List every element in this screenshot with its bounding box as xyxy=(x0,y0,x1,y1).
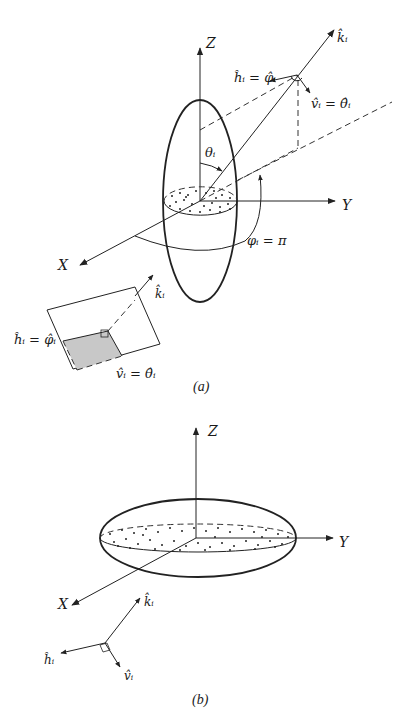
inset-v-equals-theta-label: v̂ᵢ = θ̂ᵢ xyxy=(116,366,156,381)
figure-b: Z Y X k̂ᵢ ĥᵢ v̂ᵢ (b) xyxy=(44,423,350,708)
triad-right-angle-mark xyxy=(100,643,110,652)
x-axis-label-b: X xyxy=(57,596,69,612)
y-axis-label-b: Y xyxy=(339,534,350,550)
diagram-canvas: Z Y X k̂ᵢ ĥᵢ = φ̂ᵢ v̂ᵢ = θ̂ᵢ θᵢ φᵢ = π xyxy=(0,0,402,717)
phi-equals-pi-label: φᵢ = π xyxy=(247,233,287,248)
triad-h-label: ĥᵢ xyxy=(44,652,55,667)
z-axis-label-b: Z xyxy=(207,423,218,439)
inset-h-equals-phi-label: ĥᵢ = φ̂ᵢ xyxy=(14,332,56,347)
theta-label: θᵢ xyxy=(205,145,216,160)
caption-b: (b) xyxy=(192,692,209,708)
inset-plane: k̂ᵢ ĥᵢ = φ̂ᵢ v̂ᵢ = θ̂ᵢ xyxy=(14,275,165,381)
inset-k-label: k̂ᵢ xyxy=(155,284,165,301)
theta-arc xyxy=(200,163,222,171)
x-axis-label: X xyxy=(57,257,69,273)
x-axis xyxy=(80,201,200,265)
disc-dots-b xyxy=(109,527,289,551)
triad-v-label: v̂ᵢ xyxy=(124,669,134,683)
triad-k-vector xyxy=(105,598,140,643)
triad-h-vector xyxy=(61,643,105,653)
triad-v-vector xyxy=(105,643,120,667)
y-axis-label: Y xyxy=(342,197,353,213)
inset-k-vector xyxy=(135,275,153,296)
caption-a: (a) xyxy=(193,379,210,395)
v-vector xyxy=(297,75,310,93)
triad-k-label: k̂ᵢ xyxy=(144,592,154,609)
h-equals-phi-label: ĥᵢ = φ̂ᵢ xyxy=(234,70,276,85)
x-axis-b xyxy=(72,538,196,605)
z-axis-label: Z xyxy=(205,35,216,51)
v-equals-theta-label: v̂ᵢ = θ̂ᵢ xyxy=(311,96,351,111)
k-label: k̂ᵢ xyxy=(337,28,348,45)
phi-arc xyxy=(135,175,261,250)
figure-a: Z Y X k̂ᵢ ĥᵢ = φ̂ᵢ v̂ᵢ = θ̂ᵢ θᵢ φᵢ = π xyxy=(14,28,392,395)
